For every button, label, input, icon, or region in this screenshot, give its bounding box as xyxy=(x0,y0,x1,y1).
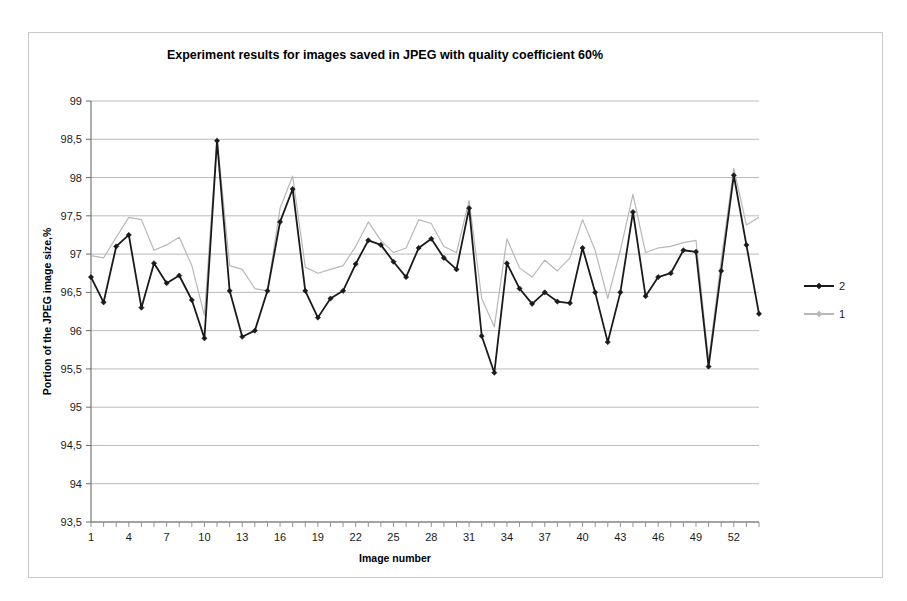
chart-title: Experiment results for images saved in J… xyxy=(167,48,603,62)
series-marker-2 xyxy=(618,290,623,295)
x-tick-label: 40 xyxy=(576,531,588,543)
y-tick-label: 93,5 xyxy=(61,516,82,528)
y-tick-label: 95,5 xyxy=(61,363,82,375)
legend-label-1: 1 xyxy=(839,308,845,320)
x-tick-label: 10 xyxy=(198,531,210,543)
series-marker-2 xyxy=(479,333,484,338)
legend-label-2: 2 xyxy=(839,280,845,292)
y-tick-label: 99 xyxy=(70,95,82,107)
x-tick-label: 31 xyxy=(463,531,475,543)
y-tick-label: 97,5 xyxy=(61,210,82,222)
series-marker-2 xyxy=(593,290,598,295)
series-marker-2 xyxy=(605,340,610,345)
y-tick-label: 98,5 xyxy=(61,133,82,145)
y-axis-title: Portion of the JPEG image size,% xyxy=(41,227,53,395)
y-tick-label: 95 xyxy=(70,401,82,413)
y-tick-label: 97 xyxy=(70,248,82,260)
x-tick-label: 43 xyxy=(614,531,626,543)
x-tick-label: 19 xyxy=(312,531,324,543)
series-marker-2 xyxy=(706,364,711,369)
series-marker-2 xyxy=(580,245,585,250)
chart-page: Experiment results for images saved in J… xyxy=(0,0,907,601)
series-marker-2 xyxy=(756,311,761,316)
chart-frame: Experiment results for images saved in J… xyxy=(28,32,883,578)
x-tick-label: 49 xyxy=(690,531,702,543)
x-tick-label: 34 xyxy=(501,531,513,543)
x-tick-label: 1 xyxy=(88,531,94,543)
series-marker-2 xyxy=(492,370,497,375)
y-tick-label: 96,5 xyxy=(61,286,82,298)
legend-marker-2 xyxy=(816,283,822,289)
y-tick-label: 94,5 xyxy=(61,439,82,451)
series-marker-2 xyxy=(630,209,635,214)
x-tick-label: 7 xyxy=(164,531,170,543)
x-tick-label: 13 xyxy=(236,531,248,543)
x-axis-title: Image number xyxy=(359,552,431,564)
x-tick-label: 46 xyxy=(652,531,664,543)
x-tick-label: 22 xyxy=(350,531,362,543)
series-marker-2 xyxy=(567,300,572,305)
series-marker-2 xyxy=(139,305,144,310)
y-tick-label: 96 xyxy=(70,325,82,337)
series-line-2 xyxy=(91,141,759,373)
y-tick-label: 98 xyxy=(70,172,82,184)
series-marker-2 xyxy=(744,242,749,247)
x-tick-label: 28 xyxy=(425,531,437,543)
x-tick-label: 25 xyxy=(387,531,399,543)
series-line-1 xyxy=(91,138,759,362)
legend-marker-1 xyxy=(816,311,822,317)
x-tick-label: 16 xyxy=(274,531,286,543)
x-tick-label: 37 xyxy=(539,531,551,543)
series-marker-2 xyxy=(202,336,207,341)
x-tick-label: 4 xyxy=(126,531,132,543)
chart-canvas: Experiment results for images saved in J… xyxy=(29,33,882,577)
x-tick-label: 52 xyxy=(728,531,740,543)
y-tick-label: 94 xyxy=(70,478,82,490)
